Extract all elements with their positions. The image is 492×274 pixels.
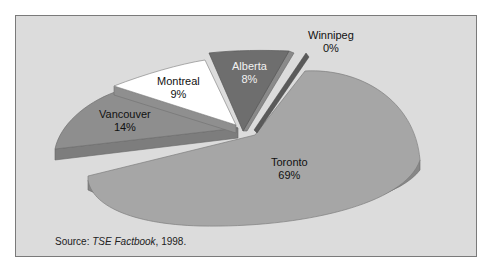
label-toronto-name: Toronto xyxy=(271,156,308,169)
source-suffix: , 1998. xyxy=(156,236,187,247)
label-montreal: Montreal 9% xyxy=(157,75,200,101)
label-alberta: Alberta 8% xyxy=(232,60,267,86)
label-alberta-pct: 8% xyxy=(232,73,267,86)
source-title: TSE Factbook xyxy=(92,236,155,247)
label-alberta-name: Alberta xyxy=(232,60,267,73)
source-prefix: Source: xyxy=(55,236,92,247)
label-winnipeg-pct: 0% xyxy=(308,42,354,55)
label-vancouver: Vancouver 14% xyxy=(99,108,151,134)
label-montreal-pct: 9% xyxy=(157,88,200,101)
pie-chart xyxy=(0,0,492,274)
label-vancouver-name: Vancouver xyxy=(99,108,151,121)
source-note: Source: TSE Factbook, 1998. xyxy=(55,236,186,247)
label-winnipeg-name: Winnipeg xyxy=(308,29,354,42)
label-toronto: Toronto 69% xyxy=(271,156,308,182)
label-vancouver-pct: 14% xyxy=(99,121,151,134)
label-winnipeg: Winnipeg 0% xyxy=(308,29,354,55)
label-montreal-name: Montreal xyxy=(157,75,200,88)
label-toronto-pct: 69% xyxy=(271,169,308,182)
